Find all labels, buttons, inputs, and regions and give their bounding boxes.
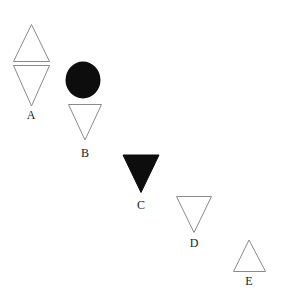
circle-filled-over-triangle-outline-icon <box>64 60 106 142</box>
triangle-down-shape <box>123 155 159 193</box>
shape-label-e: E <box>230 275 268 287</box>
triangle-down-shape <box>69 105 102 141</box>
shape-group-e <box>231 238 269 276</box>
triangle-up-outline-icon <box>231 238 269 276</box>
circle-filled-shape <box>66 62 101 99</box>
triangle-down-outline-icon <box>174 194 216 236</box>
shape-label-d: D <box>175 237 213 249</box>
triangle-up-shape <box>234 240 266 272</box>
triangle-up-shape <box>14 25 50 62</box>
shape-group-d <box>174 194 216 236</box>
shape-group-b <box>64 60 106 142</box>
shape-label-c: C <box>122 199 160 211</box>
shape-sequence-figure: A B C D E <box>0 0 282 299</box>
triangle-down-filled-icon <box>121 153 163 195</box>
shape-label-b: B <box>66 147 104 159</box>
shape-group-a <box>12 22 52 108</box>
shape-group-c <box>121 153 163 195</box>
double-triangle-outline-icon <box>12 22 52 108</box>
triangle-down-shape <box>14 66 50 107</box>
shape-label-a: A <box>12 109 50 121</box>
triangle-down-shape <box>177 197 212 233</box>
